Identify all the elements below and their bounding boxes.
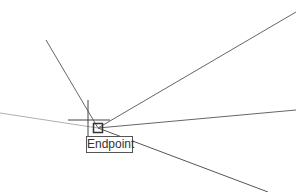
upper-left-line[interactable] [46, 40, 98, 128]
middle-right-line[interactable] [98, 110, 296, 128]
crosshair-cursor-icon [68, 100, 110, 140]
top-right-line[interactable] [98, 12, 296, 128]
drawing-canvas[interactable] [0, 0, 303, 192]
snap-tooltip: Endpoint [86, 136, 133, 153]
snap-tooltip-label: Endpoint [87, 137, 134, 151]
